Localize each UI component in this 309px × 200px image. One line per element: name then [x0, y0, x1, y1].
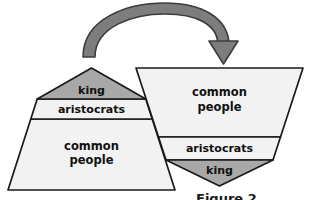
label-aristocrats-left: aristocrats — [58, 103, 126, 116]
hierarchy-diagram-svg: king aristocrats common people common pe… — [0, 0, 309, 200]
label-common-people-left-line2: people — [70, 153, 114, 167]
figure-caption-text: Figure 2 — [196, 192, 276, 200]
label-king-left: king — [78, 84, 105, 97]
arrow-head — [209, 41, 238, 64]
figure-caption: Figure 2 — [196, 192, 276, 200]
curved-transformation-arrow — [83, 3, 238, 64]
arrow-arc — [83, 3, 229, 57]
label-common-people-right-line1: common — [192, 85, 247, 99]
diagram-canvas: king aristocrats common people common pe… — [0, 0, 309, 200]
label-king-right: king — [206, 164, 233, 177]
label-common-people-right-line2: people — [198, 100, 242, 114]
label-common-people-left-line1: common — [64, 139, 119, 153]
label-aristocrats-right: aristocrats — [186, 142, 254, 155]
